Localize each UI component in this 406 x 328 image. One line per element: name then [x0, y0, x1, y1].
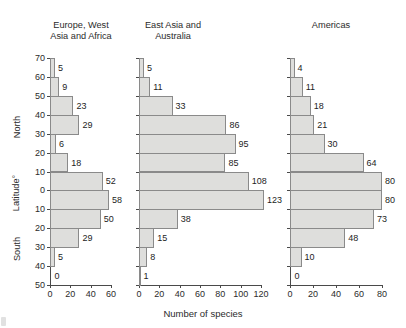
- plot-area-east-asia-australia: 02040608010012051133869585108123381581: [139, 58, 261, 285]
- x-tick-label-americas-0: 0: [287, 289, 292, 299]
- y-tick-label-40-11: 40: [35, 261, 45, 271]
- bar-value-east-asia-australia-2: 33: [176, 101, 186, 111]
- bar-east-asia-australia-10: [139, 247, 147, 267]
- bar-value-europe-west-asia-africa-10: 5: [58, 252, 63, 262]
- bar-east-asia-australia-3: [139, 115, 226, 135]
- bar-value-americas-5: 64: [367, 158, 377, 168]
- bar-value-east-asia-australia-5: 85: [228, 158, 238, 168]
- x-tick-label-east-asia-australia-80: 80: [215, 289, 225, 299]
- x-tick-americas-80: [382, 285, 383, 288]
- bar-europe-west-asia-africa-6: [50, 172, 103, 192]
- x-tick-label-americas-80: 80: [377, 289, 387, 299]
- species-latitude-figure: Latitude° North South Number of species …: [0, 0, 406, 328]
- bar-europe-west-asia-africa-10: [50, 247, 55, 267]
- x-tick-europe-west-asia-africa-0: [50, 285, 51, 288]
- bar-europe-west-asia-africa-1: [50, 77, 59, 97]
- x-tick-east-asia-australia-20: [159, 285, 160, 288]
- y-axis-title: Latitude°: [11, 163, 21, 223]
- y-axis-north-label: North: [12, 106, 22, 148]
- corner-artifact: [1, 317, 6, 326]
- bar-value-europe-west-asia-africa-8: 50: [104, 214, 114, 224]
- bar-value-americas-7: 80: [385, 195, 395, 205]
- bar-value-europe-west-asia-africa-1: 9: [62, 82, 67, 92]
- bar-americas-2: [290, 96, 311, 116]
- bar-value-europe-west-asia-africa-3: 29: [82, 120, 92, 130]
- x-tick-label-east-asia-australia-0: 0: [136, 289, 141, 299]
- x-tick-europe-west-asia-africa-20: [70, 285, 71, 288]
- bar-americas-1: [290, 77, 303, 97]
- bar-value-americas-1: 11: [306, 82, 315, 92]
- x-axis-title: Number of species: [163, 308, 242, 319]
- bar-value-americas-10: 10: [305, 252, 315, 262]
- panel-title-east-asia-australia: East Asia and Australia: [110, 20, 236, 42]
- bar-value-east-asia-australia-0: 5: [147, 63, 152, 73]
- bar-value-europe-west-asia-africa-7: 58: [112, 195, 122, 205]
- x-tick-label-east-asia-australia-120: 120: [253, 289, 268, 299]
- bar-east-asia-australia-8: [139, 209, 178, 229]
- bar-europe-west-asia-africa-3: [50, 115, 79, 135]
- y-tick-label-30-10: 30: [35, 242, 45, 252]
- bar-value-east-asia-australia-6: 108: [252, 176, 267, 186]
- bar-east-asia-australia-5: [139, 153, 225, 173]
- bar-east-asia-australia-0: [139, 58, 144, 78]
- x-tick-europe-west-asia-africa-40: [91, 285, 92, 288]
- x-tick-label-americas-60: 60: [354, 289, 364, 299]
- x-tick-east-asia-australia-40: [180, 285, 181, 288]
- x-tick-east-asia-australia-80: [220, 285, 221, 288]
- bar-value-east-asia-australia-11: 1: [144, 271, 149, 281]
- x-tick-label-east-asia-australia-40: 40: [175, 289, 185, 299]
- x-tick-east-asia-australia-120: [261, 285, 262, 288]
- x-tick-label-europe-west-asia-africa-40: 40: [86, 289, 96, 299]
- x-tick-label-americas-40: 40: [331, 289, 341, 299]
- bar-europe-west-asia-africa-4: [50, 134, 56, 154]
- y-tick-label-40-3: 40: [35, 110, 45, 120]
- x-tick-label-east-asia-australia-20: 20: [154, 289, 164, 299]
- plot-area-americas: 0204060804111821306480807348100: [290, 58, 382, 285]
- x-tick-americas-60: [359, 285, 360, 288]
- bar-americas-6: [290, 172, 382, 192]
- bar-value-europe-west-asia-africa-4: 6: [59, 139, 64, 149]
- bar-americas-7: [290, 190, 382, 210]
- bar-europe-west-asia-africa-5: [50, 153, 68, 173]
- bar-value-east-asia-australia-4: 95: [239, 139, 249, 149]
- bar-value-europe-west-asia-africa-0: 5: [58, 63, 63, 73]
- bar-value-americas-6: 80: [385, 176, 395, 186]
- y-axis-south-label: South: [12, 228, 22, 270]
- bar-east-asia-australia-11: [139, 266, 141, 286]
- bar-americas-10: [290, 247, 302, 267]
- bar-europe-west-asia-africa-0: [50, 58, 55, 78]
- bar-east-asia-australia-1: [139, 77, 150, 97]
- x-tick-label-east-asia-australia-60: 60: [195, 289, 205, 299]
- x-tick-label-americas-20: 20: [308, 289, 318, 299]
- x-tick-east-asia-australia-60: [200, 285, 201, 288]
- bar-value-americas-2: 18: [314, 101, 324, 111]
- bar-americas-9: [290, 228, 345, 248]
- x-tick-east-asia-australia-100: [241, 285, 242, 288]
- bar-europe-west-asia-africa-2: [50, 96, 73, 116]
- bar-value-europe-west-asia-africa-9: 29: [82, 233, 92, 243]
- plot-area-europe-west-asia-africa: 7060504030201001020304050020406059232961…: [50, 58, 111, 285]
- bar-east-asia-australia-2: [139, 96, 173, 116]
- bar-value-east-asia-australia-8: 38: [181, 214, 191, 224]
- bar-europe-west-asia-africa-9: [50, 228, 79, 248]
- x-tick-label-europe-west-asia-africa-0: 0: [47, 289, 52, 299]
- bar-east-asia-australia-6: [139, 172, 249, 192]
- bar-europe-west-asia-africa-8: [50, 209, 101, 229]
- y-tick-label-60-1: 60: [35, 72, 45, 82]
- bar-value-europe-west-asia-africa-5: 18: [71, 158, 81, 168]
- x-axis-line-europe-west-asia-africa: [50, 285, 111, 286]
- bar-americas-3: [290, 115, 314, 135]
- bar-value-americas-11: 0: [295, 271, 300, 281]
- bar-value-east-asia-australia-10: 8: [150, 252, 155, 262]
- bar-east-asia-australia-7: [139, 190, 264, 210]
- bar-americas-4: [290, 134, 325, 154]
- bar-americas-0: [290, 58, 295, 78]
- bar-value-east-asia-australia-1: 11: [153, 82, 162, 92]
- y-tick-label-50-12: 50: [35, 280, 45, 290]
- bar-value-europe-west-asia-africa-6: 52: [106, 176, 116, 186]
- y-tick-label-70-0: 70: [35, 53, 45, 63]
- y-tick-label-20-5: 20: [35, 148, 45, 158]
- x-tick-americas-0: [290, 285, 291, 288]
- bar-europe-west-asia-africa-7: [50, 190, 109, 210]
- y-tick-label-20-9: 20: [35, 223, 45, 233]
